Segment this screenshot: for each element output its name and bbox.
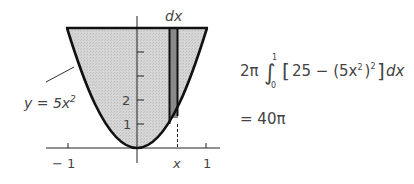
formula-dx: dx [386,62,405,80]
right-bracket: ] [377,59,385,83]
formula-result: = 40π [240,110,285,128]
left-bracket: [ [282,59,290,83]
svg-text:25 − (5x2)2: 25 − (5x2)2 [292,62,376,80]
x-tick-label-neg1: − 1 [52,156,75,171]
x-strip-label: x [172,156,181,171]
integral-formula: 2π ∫ 1 0 [ 25 − (5x2)2 ] dx [240,53,405,90]
svg-text:2π: 2π [240,62,259,80]
curve-label: y = 5x2 [23,94,76,111]
curve-label-pointer [46,67,74,82]
y-tick-label-1: 1 [123,117,131,132]
dx-label: dx [165,8,183,24]
integral-upper-limit: 1 [272,53,277,62]
integral-lower-limit: 0 [271,81,276,90]
shell-method-diagram: y = 5x2 dx 2 1 − 1 x 1 2π ∫ 1 0 [ 25 − (… [0,0,414,184]
x-tick-label-1: 1 [203,156,211,171]
y-tick-label-2: 2 [122,93,130,108]
